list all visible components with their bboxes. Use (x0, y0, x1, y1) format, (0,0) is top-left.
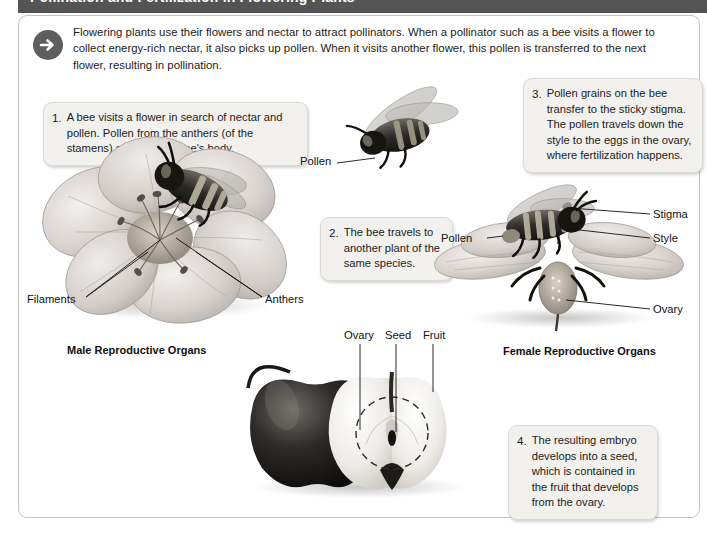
content-frame: Flowering plants use their flowers and n… (18, 15, 700, 518)
header-bar: Pollination and Fertilization in Floweri… (18, 0, 707, 13)
label-pollen-flying-bee: Pollen (300, 155, 331, 167)
step-text-4: The resulting embryo develops into a see… (532, 433, 648, 511)
header-title: Pollination and Fertilization in Floweri… (30, 0, 355, 5)
arrow-right-circle-icon (33, 30, 63, 60)
label-style: Style (653, 232, 678, 244)
step-text-3: Pollen grains on the bee transfer to the… (547, 86, 693, 164)
step-number-1: 1. (52, 110, 62, 157)
step-callout-2: 2. The bee travels to another plant of t… (320, 217, 453, 281)
step-number-3: 3. (532, 86, 542, 164)
step-callout-3: 3. Pollen grains on the bee transfer to … (523, 78, 703, 173)
step-text-2: The bee travels to another plant of the … (344, 225, 443, 272)
intro-text: Flowering plants use their flowers and n… (73, 24, 673, 73)
label-ovary-flower: Ovary (653, 303, 683, 315)
step-text-1: A bee visits a flower in search of necta… (67, 110, 298, 157)
label-pollen-female-flower: Pollen (441, 232, 472, 244)
caption-female-organs: Female Reproductive Organs (503, 345, 656, 357)
label-stigma: Stigma (653, 208, 688, 220)
label-ovary-apple: Ovary (344, 329, 374, 341)
step-number-2: 2. (329, 225, 339, 272)
step-callout-1: 1. A bee visits a flower in search of ne… (43, 102, 308, 166)
diagram-page: Pollination and Fertilization in Floweri… (0, 0, 707, 534)
caption-male-organs: Male Reproductive Organs (67, 344, 206, 356)
step-callout-4: 4. The resulting embryo develops into a … (508, 425, 658, 520)
label-fruit: Fruit (423, 329, 445, 341)
label-anthers: Anthers (265, 293, 304, 305)
label-filaments: Filaments (27, 293, 76, 305)
step-number-4: 4. (517, 433, 527, 511)
label-seed: Seed (385, 329, 411, 341)
